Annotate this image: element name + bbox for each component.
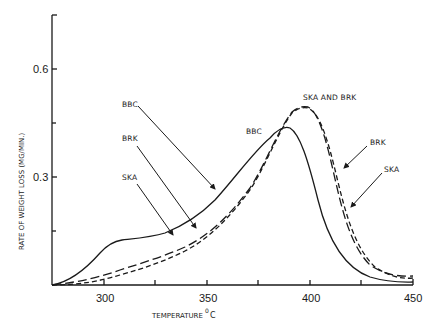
x-tick-label-400: 400 (302, 292, 320, 304)
x-tick-label-300: 300 (96, 292, 114, 304)
arrow-ska-right (351, 173, 382, 207)
annotation-bbc-peak: BBC (246, 127, 262, 136)
series-bbc-solid (52, 127, 413, 285)
annotation-ska-brk-peak: SKA AND BRK (303, 93, 357, 102)
x-axis (52, 279, 413, 285)
annotation-ska-right: SKA (384, 165, 400, 174)
annotation-brk-left: BRK (122, 134, 139, 143)
arrow-brk-right (344, 146, 367, 168)
chart-canvas: 0.6 0.3 300 350 400 450 RATE OF WEIGHT L… (0, 0, 432, 331)
x-tick-label-450: 450 (404, 292, 422, 304)
series-ska-short-dash (52, 108, 413, 285)
y-tick-label-0.3: 0.3 (33, 171, 48, 183)
x-tick-label-350: 350 (199, 292, 217, 304)
arrow-bbc-left (138, 106, 215, 189)
annotation-ska-left: SKA (122, 173, 138, 182)
x-axis-unit: C (210, 311, 216, 320)
arrow-ska-left (137, 184, 173, 235)
y-tick-label-0.6: 0.6 (33, 63, 48, 75)
x-axis-title: TEMPERATURE (151, 312, 203, 320)
y-axis-title: RATE OF WEIGHT LOSS (MG/MIN.) (18, 133, 26, 250)
y-axis (52, 15, 57, 285)
series-brk-long-dash (52, 107, 413, 285)
x-axis-unit-degree: 0 (205, 307, 209, 314)
annotation-brk-right: BRK (370, 138, 387, 147)
annotation-bbc-left: BBC (122, 100, 138, 109)
